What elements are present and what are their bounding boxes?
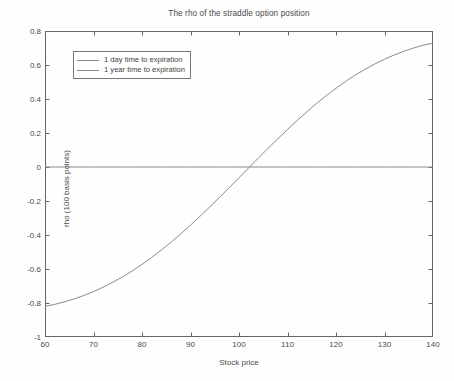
x-tick-label: 110 <box>281 340 294 349</box>
y-axis-title: rho (100 basis points) <box>62 119 71 259</box>
y-tick-label: 0 <box>37 163 41 172</box>
y-tick-label: -0.8 <box>27 299 41 308</box>
y-tick-label: -0.2 <box>27 197 41 206</box>
y-tick-label: -0.4 <box>27 231 41 240</box>
chart-legend: 1 day time to expiration1 year time to e… <box>73 51 191 79</box>
y-tick-label: -0.6 <box>27 265 41 274</box>
legend-item: 1 day time to expiration <box>77 55 185 65</box>
y-tick-label: 0.6 <box>30 61 41 70</box>
y-tick-label: 0.4 <box>30 95 41 104</box>
x-tick-label: 90 <box>186 340 195 349</box>
x-tick-label: 70 <box>89 340 98 349</box>
x-tick-label: 80 <box>138 340 147 349</box>
series-line-1 <box>45 43 433 306</box>
y-tick-label: 0.8 <box>30 27 41 36</box>
legend-line-icon <box>77 60 99 61</box>
x-tick-label: 140 <box>426 340 439 349</box>
y-tick-label: 0.2 <box>30 129 41 138</box>
page-title: The rho of the straddle option position <box>45 9 433 18</box>
x-tick-label: 120 <box>329 340 342 349</box>
x-tick-label: 130 <box>378 340 391 349</box>
x-tick-label: 60 <box>41 340 50 349</box>
legend-item-label: 1 year time to expiration <box>104 65 185 75</box>
legend-item: 1 year time to expiration <box>77 65 185 75</box>
x-axis-title: Stock price <box>45 358 433 367</box>
legend-item-label: 1 day time to expiration <box>104 55 183 65</box>
data-series-group <box>45 43 433 306</box>
figure-canvas: The rho of the straddle option position … <box>0 0 454 381</box>
legend-line-icon <box>77 70 99 71</box>
x-tick-label: 100 <box>232 340 245 349</box>
